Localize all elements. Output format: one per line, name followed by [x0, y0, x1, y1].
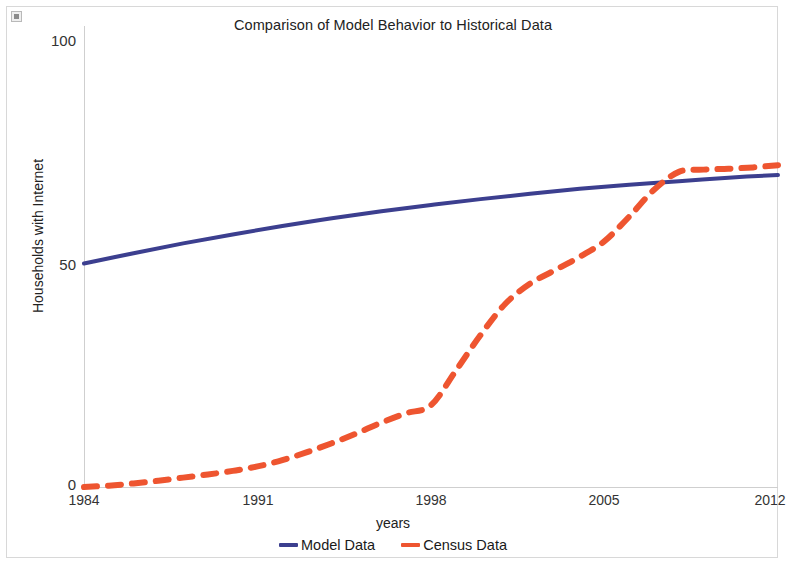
- legend-item-census-data[interactable]: Census Data: [401, 537, 507, 553]
- chart-screen: Comparison of Model Behavior to Historic…: [0, 0, 786, 562]
- legend-item-model-data[interactable]: Model Data: [279, 537, 375, 553]
- legend-label-model-data: Model Data: [301, 537, 375, 553]
- legend-swatch-model-data: [279, 543, 298, 547]
- chart-legend: Model Data Census Data: [0, 537, 786, 553]
- series-line-model-data: [84, 175, 778, 264]
- legend-swatch-census-data: [401, 543, 420, 547]
- chart-curves: [0, 0, 786, 562]
- series-line-census-data: [84, 165, 778, 487]
- legend-label-census-data: Census Data: [423, 537, 507, 553]
